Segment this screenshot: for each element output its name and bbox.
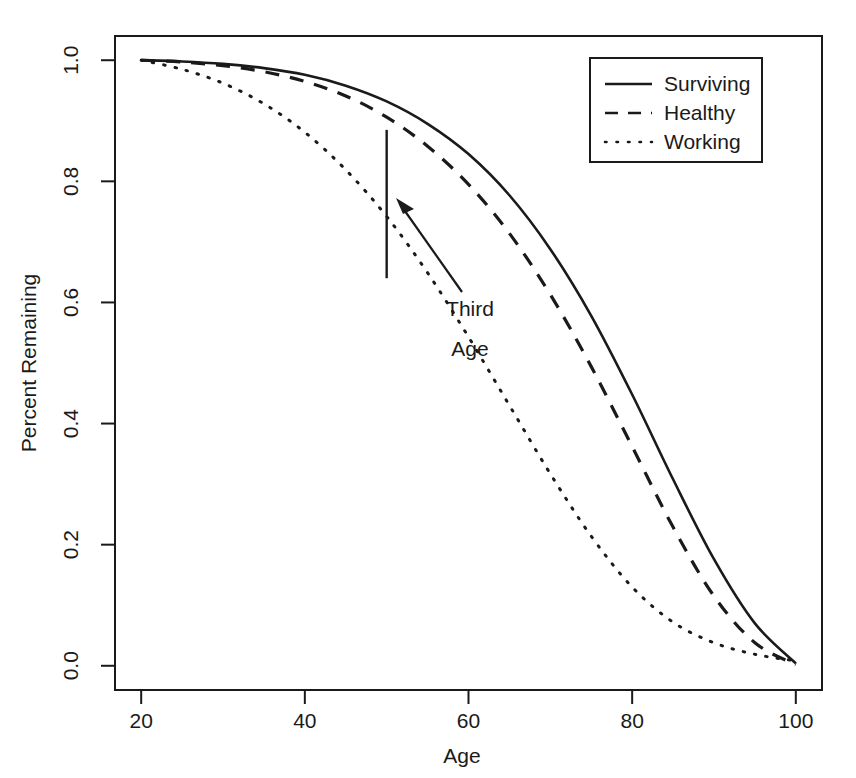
- y-tick-label-5: 1.0: [59, 46, 82, 75]
- x-tick-label-0: 20: [130, 709, 153, 732]
- y-tick-label-3: 0.6: [59, 288, 82, 317]
- arrow-shaft: [400, 204, 462, 292]
- x-axis-tick-labels: 20 40 60 80 100: [130, 709, 814, 732]
- y-tick-label-2: 0.4: [59, 409, 82, 439]
- y-tick-label-0: 0.0: [59, 651, 82, 680]
- third-age-arrow: [396, 198, 462, 292]
- arrow-head: [396, 198, 414, 214]
- legend: Surviving Healthy Working: [590, 58, 762, 162]
- y-axis-ticks: [101, 60, 115, 666]
- x-tick-label-3: 80: [620, 709, 643, 732]
- x-tick-label-2: 60: [457, 709, 480, 732]
- figure-container: 1.0 0.8 0.6 0.4 0.2 0.0 Percent Remainin…: [0, 0, 856, 778]
- y-axis-tick-labels: 1.0 0.8 0.6 0.4 0.2 0.0: [59, 46, 82, 681]
- x-axis-ticks: [141, 690, 796, 704]
- legend-label-healthy: Healthy: [664, 101, 736, 124]
- x-tick-label-4: 100: [778, 709, 813, 732]
- y-axis-title: Percent Remaining: [17, 274, 40, 453]
- x-tick-label-1: 40: [293, 709, 316, 732]
- legend-label-working: Working: [664, 130, 741, 153]
- third-age-label-line1: Third: [446, 297, 494, 320]
- y-tick-label-4: 0.8: [59, 167, 82, 196]
- y-tick-label-1: 0.2: [59, 530, 82, 559]
- third-age-label-line2: Age: [451, 337, 488, 360]
- x-axis-title: Age: [443, 744, 480, 767]
- legend-label-surviving: Surviving: [664, 72, 750, 95]
- survival-curves-chart: 1.0 0.8 0.6 0.4 0.2 0.0 Percent Remainin…: [0, 0, 856, 778]
